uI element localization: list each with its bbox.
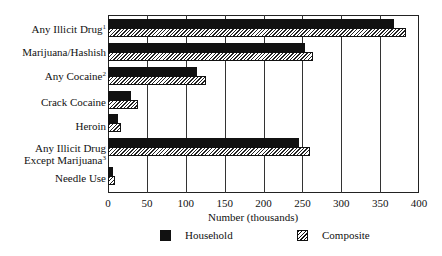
bar-household [108, 114, 118, 123]
bar-household [108, 138, 299, 147]
gridline [225, 15, 226, 193]
bar-household [108, 167, 113, 176]
bar-composite [108, 76, 206, 85]
x-axis-label: Number (thousands) [208, 211, 298, 223]
bar-household [108, 19, 394, 28]
bar-composite [108, 123, 121, 132]
bar-composite [108, 176, 115, 185]
hatched-swatch-icon [297, 230, 308, 241]
horizontal-bar-chart: Any Illicit Drug1 Marijuana/Hashish Any … [0, 0, 442, 256]
bar-household [108, 43, 305, 52]
legend-composite: Composite [297, 229, 370, 241]
category-label-marijuana: Marijuana/Hashish [22, 46, 106, 58]
category-label-needle-use: Needle Use [55, 172, 106, 184]
gridline [380, 15, 381, 193]
x-tick-label: 200 [255, 197, 272, 209]
category-label-any-cocaine: Any Cocaine2 [45, 70, 106, 82]
bar-composite [108, 52, 313, 61]
gridline [302, 15, 303, 193]
category-label-any-illicit-drug: Any Illicit Drug1 [32, 23, 106, 35]
gridline [264, 15, 265, 193]
x-tick-label: 250 [294, 197, 311, 209]
bar-composite [108, 28, 406, 37]
bar-composite [108, 147, 310, 156]
legend-label: Household [185, 229, 233, 241]
x-tick-label: 50 [141, 197, 152, 209]
x-tick-label: 150 [216, 197, 233, 209]
bar-composite [108, 100, 138, 109]
category-label-heroin: Heroin [75, 120, 106, 132]
x-tick-label: 0 [105, 197, 111, 209]
legend-household: Household [160, 229, 233, 241]
x-tick-label: 300 [333, 197, 350, 209]
bar-household [108, 67, 197, 76]
category-label-crack-cocaine: Crack Cocaine [41, 96, 106, 108]
gridline [341, 15, 342, 193]
legend-label: Composite [322, 229, 370, 241]
gridline [147, 15, 148, 193]
solid-swatch-icon [160, 230, 171, 241]
x-tick-label: 400 [411, 197, 428, 209]
category-label-any-except-marijuana: Any Illicit DrugExcept Marijuana3 [24, 142, 106, 166]
x-tick-label: 350 [372, 197, 389, 209]
x-tick-label: 100 [178, 197, 195, 209]
bar-household [108, 91, 131, 100]
gridline [186, 15, 187, 193]
